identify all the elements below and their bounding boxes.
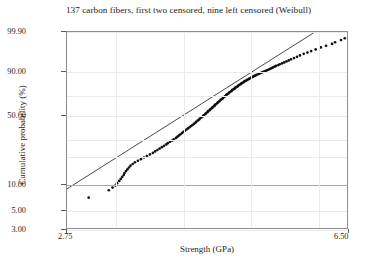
y-axis-tick: [61, 71, 66, 72]
data-point-group: [87, 37, 346, 199]
data-point: [166, 142, 169, 145]
gridline-horizontal: [67, 72, 347, 73]
data-point: [149, 153, 152, 156]
data-point: [154, 150, 157, 153]
y-axis-title: Cumulative probability (%): [17, 55, 27, 215]
data-point: [340, 39, 343, 42]
data-point: [158, 147, 161, 150]
y-axis-tick: [61, 210, 66, 211]
gridline-vertical: [251, 32, 252, 228]
data-point: [293, 57, 296, 60]
data-point: [134, 161, 137, 164]
data-point: [343, 37, 346, 40]
data-point: [334, 41, 337, 44]
data-point: [299, 54, 302, 57]
data-point: [129, 164, 132, 167]
data-point: [320, 46, 323, 49]
data-point: [306, 51, 309, 54]
gridline-horizontal: [67, 116, 347, 117]
data-point: [111, 186, 114, 189]
gridline-horizontal: [67, 157, 347, 158]
y-axis-tick-label: 50.00: [7, 110, 26, 119]
data-point: [156, 149, 159, 152]
data-point: [310, 50, 313, 53]
data-point: [107, 189, 110, 192]
gridline-vertical: [184, 32, 185, 228]
fit-line: [67, 32, 315, 189]
gridline-horizontal: [67, 211, 347, 212]
x-axis-tick-label: 6.50: [334, 232, 349, 241]
gridline-vertical: [116, 32, 117, 228]
y-axis-tick: [61, 184, 66, 185]
weibull-probability-plot-figure: 137 carbon fibers, first two censored, n…: [0, 0, 377, 268]
data-point: [87, 196, 90, 199]
y-axis-tick-label: 10.00: [7, 179, 26, 188]
gridline-horizontal: [67, 32, 347, 33]
plot-area: [66, 31, 348, 229]
gridline-vertical: [319, 32, 320, 228]
x-axis-tick-label: 2.75: [58, 232, 73, 241]
data-point: [152, 152, 155, 155]
x-axis-title: Strength (GPa): [66, 244, 348, 254]
gridline-horizontal: [67, 185, 347, 186]
data-point: [160, 146, 163, 149]
data-point: [163, 145, 166, 148]
plot-canvas: [67, 32, 347, 228]
data-point: [325, 45, 328, 48]
data-point: [137, 159, 140, 162]
data-point: [296, 56, 299, 59]
y-axis-tick: [61, 31, 66, 32]
gridline-horizontal: [67, 230, 347, 231]
data-point: [290, 58, 293, 61]
data-point: [131, 163, 134, 166]
gridline-horizontal: [67, 96, 347, 97]
gridline-horizontal: [67, 140, 347, 141]
y-axis-tick-label: 90.00: [7, 67, 26, 76]
y-axis-tick-label: 3.00: [11, 225, 26, 234]
y-axis-tick-label: 99.90: [7, 27, 26, 36]
y-axis-tick: [61, 115, 66, 116]
data-point: [331, 43, 334, 46]
y-axis-tick-label: 5.00: [11, 206, 26, 215]
data-point: [302, 53, 305, 56]
data-point: [314, 48, 317, 51]
chart-title: 137 carbon fibers, first two censored, n…: [0, 5, 377, 15]
